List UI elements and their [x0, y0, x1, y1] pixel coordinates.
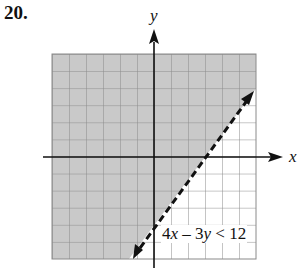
- inequality-graph: x y: [0, 0, 304, 272]
- rhs-value: 12: [229, 224, 246, 243]
- coef-a: 4: [162, 224, 171, 243]
- coef-b: 3: [195, 224, 204, 243]
- minus-sign: –: [178, 224, 195, 243]
- less-than-sign: <: [211, 224, 229, 243]
- y-axis-arrow-icon: [149, 29, 159, 44]
- var-x: x: [171, 224, 179, 243]
- inequality-label: 4x – 3y < 12: [161, 225, 247, 243]
- x-axis-label: x: [288, 147, 297, 166]
- y-axis-label: y: [148, 6, 158, 25]
- var-y: y: [204, 224, 212, 243]
